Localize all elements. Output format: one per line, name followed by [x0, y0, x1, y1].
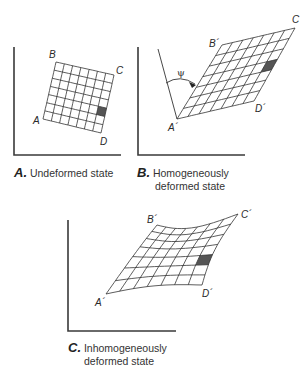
panel-c-grid	[106, 214, 238, 294]
panel-c-point-c: C´	[241, 209, 252, 220]
psi-angle-label: ψ	[177, 67, 185, 78]
panel-c-point-b: B´	[147, 214, 158, 225]
panel-c-letter: C.	[68, 340, 81, 355]
panel-c-point-d: D´	[202, 288, 213, 299]
panel-b-grid	[177, 28, 295, 119]
panel-a-point-b: B	[49, 49, 56, 60]
panel-b-letter: B.	[137, 165, 150, 180]
panel-c-point-a: A´	[94, 297, 106, 308]
panel-a-caption-text: Undeformed state	[30, 167, 113, 179]
panel-c-caption: C. Inhomogeneously deformed state	[68, 341, 167, 368]
reference-line	[158, 49, 177, 119]
panel-b-point-c: C	[292, 14, 300, 25]
panel-c-caption-line2: deformed state	[68, 355, 154, 367]
panel-b-point-b: B´	[209, 38, 220, 49]
panel-a-caption: A. Undeformed state	[14, 166, 113, 180]
panel-a-grid	[43, 62, 114, 133]
panel-b-caption: B. Homogeneously deformed state	[137, 166, 229, 193]
panel-b-point-a: A´	[167, 122, 179, 133]
panel-a-point-a: A	[32, 115, 40, 126]
panel-b-caption-line1: Homogeneously	[153, 167, 229, 179]
panel-a-point-c: C	[116, 65, 124, 76]
panel-c-caption-line1: Inhomogeneously	[84, 342, 167, 354]
panel-b-point-d: D´	[255, 103, 266, 114]
panel-a-point-d: D	[100, 136, 107, 147]
panel-b-caption-line2: deformed state	[137, 180, 225, 192]
panel-a-letter: A.	[14, 165, 27, 180]
